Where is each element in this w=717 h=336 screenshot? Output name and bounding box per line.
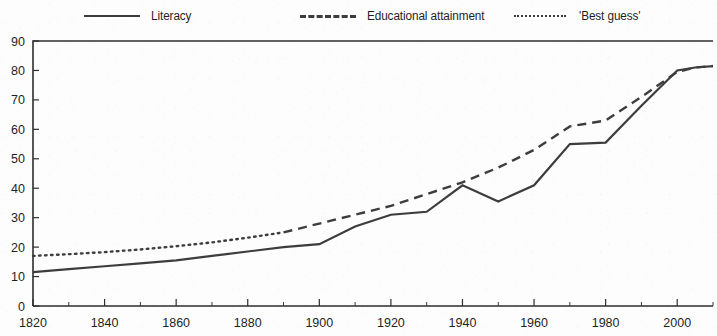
dashed-line-swatch-icon bbox=[300, 9, 356, 23]
y-axis-ticks bbox=[33, 41, 39, 306]
x-tick-label: 1820 bbox=[19, 316, 47, 330]
y-axis-tick-labels: 0102030405060708090 bbox=[11, 35, 25, 314]
x-tick-label: 1960 bbox=[520, 316, 548, 330]
solid-line-swatch-icon bbox=[84, 9, 140, 23]
chart-svg: 0102030405060708090 18201840186018801900… bbox=[0, 30, 717, 336]
legend-item-educational-attainment: Educational attainment bbox=[300, 6, 492, 26]
x-tick-label: 1940 bbox=[449, 316, 477, 330]
y-tick-label: 50 bbox=[11, 152, 25, 166]
y-tick-label: 80 bbox=[11, 64, 25, 78]
y-tick-label: 70 bbox=[11, 93, 25, 107]
series-line-literacy bbox=[33, 66, 713, 272]
x-axis-ticks bbox=[33, 299, 713, 306]
y-tick-label: 40 bbox=[11, 182, 25, 196]
y-tick-label: 30 bbox=[11, 211, 25, 225]
axis-frame bbox=[33, 41, 713, 306]
x-tick-label: 1860 bbox=[162, 316, 190, 330]
data-series-group bbox=[33, 66, 713, 272]
legend-item-best-guess: 'Best guess' bbox=[512, 6, 644, 26]
y-tick-label: 20 bbox=[11, 241, 25, 255]
x-tick-label: 1840 bbox=[91, 316, 119, 330]
y-tick-label: 60 bbox=[11, 123, 25, 137]
legend-label-literacy: Literacy bbox=[151, 9, 191, 23]
y-tick-label: 0 bbox=[18, 300, 25, 314]
x-tick-label: 1900 bbox=[305, 316, 333, 330]
y-tick-label: 10 bbox=[11, 270, 25, 284]
legend-item-literacy: Literacy bbox=[84, 6, 194, 26]
x-tick-label: 1920 bbox=[377, 316, 405, 330]
legend-label-educational-attainment: Educational attainment bbox=[367, 9, 484, 23]
plot-area: 0102030405060708090 18201840186018801900… bbox=[0, 30, 717, 336]
series-line-educational-attainment bbox=[284, 66, 713, 232]
chart-axes bbox=[33, 41, 713, 306]
legend-label-best-guess: 'Best guess' bbox=[579, 9, 640, 23]
y-tick-label: 90 bbox=[11, 35, 25, 49]
x-tick-label: 2000 bbox=[663, 316, 691, 330]
x-tick-label: 1880 bbox=[234, 316, 262, 330]
literacy-attainment-line-chart: Literacy Educational attainment 'Best gu… bbox=[0, 0, 717, 336]
x-axis-tick-labels: 1820184018601880190019201940196019802000 bbox=[19, 316, 691, 330]
chart-legend: Literacy Educational attainment 'Best gu… bbox=[0, 6, 717, 30]
dotted-line-swatch-icon bbox=[512, 9, 568, 23]
x-tick-label: 1980 bbox=[592, 316, 620, 330]
